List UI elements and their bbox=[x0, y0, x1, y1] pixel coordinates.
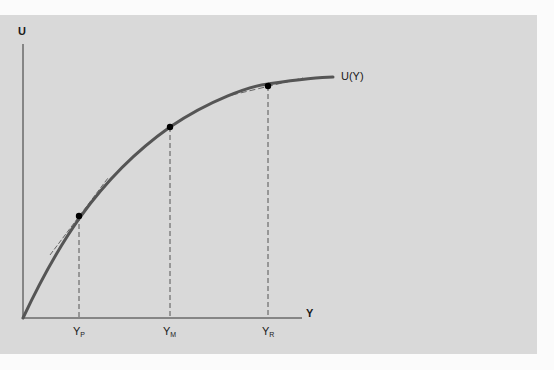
tick-label-ym: YM bbox=[163, 326, 176, 338]
curve-label: U(Y) bbox=[341, 71, 364, 82]
point-ym bbox=[167, 124, 173, 130]
point-yr bbox=[265, 83, 271, 89]
tick-label-yp: YP bbox=[73, 326, 85, 338]
tick-label-yr: YR bbox=[262, 326, 274, 338]
utility-curve bbox=[23, 77, 333, 318]
x-axis-label: Y bbox=[306, 308, 313, 319]
y-axis-label: U bbox=[18, 26, 26, 37]
point-yp bbox=[76, 213, 82, 219]
utility-curve-diagram bbox=[0, 0, 554, 370]
